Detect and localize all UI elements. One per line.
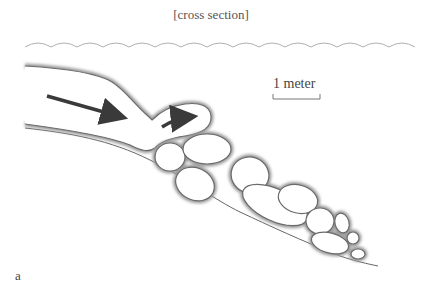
cross-section-diagram bbox=[0, 0, 422, 289]
boulder bbox=[347, 232, 359, 244]
boulder bbox=[306, 208, 334, 234]
water-surface-line bbox=[25, 43, 415, 47]
lava-flow-tube bbox=[25, 66, 211, 151]
boulder bbox=[183, 134, 231, 164]
boulder bbox=[351, 249, 365, 259]
boulder bbox=[155, 143, 185, 171]
scale-bar bbox=[273, 94, 320, 99]
pillow-boulders bbox=[155, 134, 365, 259]
